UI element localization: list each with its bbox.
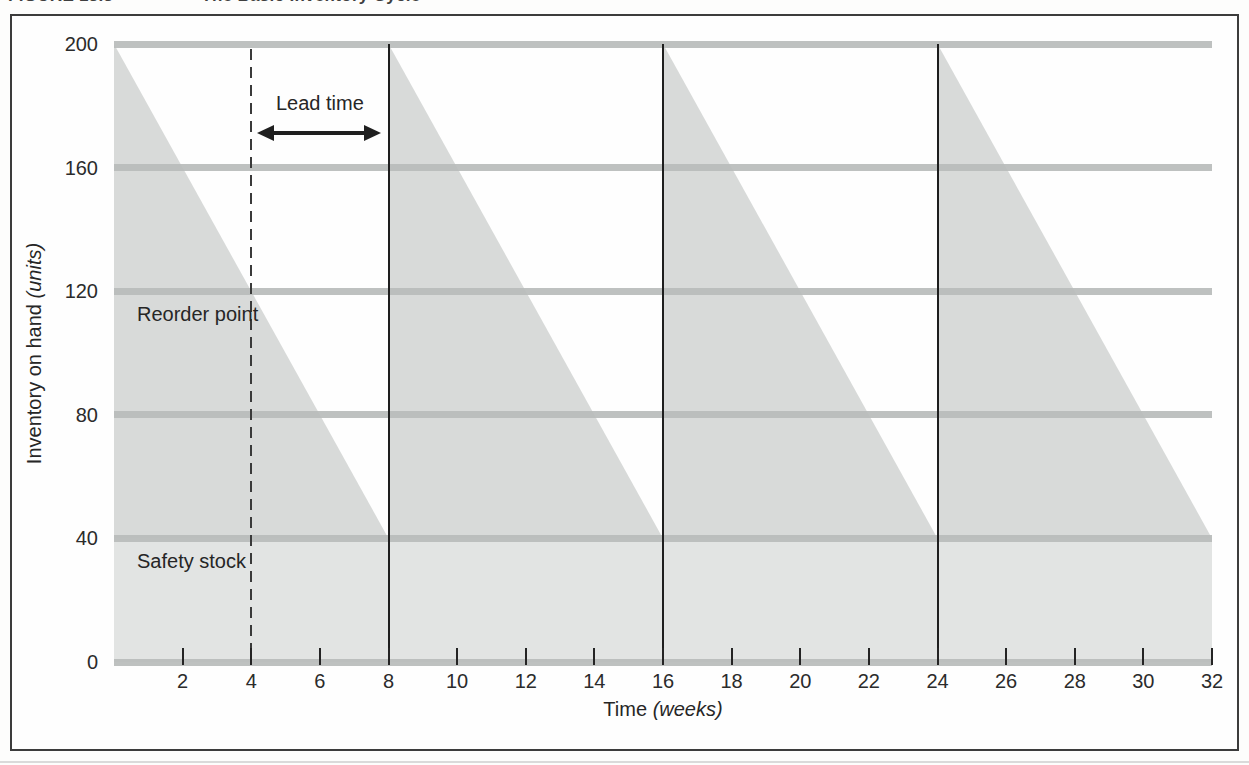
y-tick-label-200: 200 xyxy=(38,32,98,56)
x-tick-24 xyxy=(937,648,939,665)
replenishment-line-week-24 xyxy=(937,44,939,662)
x-tick-10 xyxy=(456,648,458,665)
x-tick-label-6: 6 xyxy=(300,670,340,693)
page-scan-artifact-line xyxy=(0,761,1249,763)
x-tick-16 xyxy=(662,648,664,665)
x-tick-2 xyxy=(182,648,184,665)
x-axis-title: Time (weeks) xyxy=(114,698,1212,721)
x-tick-14 xyxy=(593,648,595,665)
figure-caption-text: FIGURE 13.3The Basic Inventory Cycle xyxy=(8,0,648,6)
arrow-shaft xyxy=(274,131,363,135)
lead-time-annotation: Lead time xyxy=(251,92,388,150)
x-tick-label-4: 4 xyxy=(231,670,271,693)
x-tick-label-30: 30 xyxy=(1123,670,1163,693)
x-tick-label-24: 24 xyxy=(918,670,958,693)
x-tick-label-20: 20 xyxy=(780,670,820,693)
lead-time-arrow xyxy=(257,125,380,141)
arrow-left-head-icon xyxy=(257,125,274,141)
y-axis-tick-labels: 04080120160200 xyxy=(12,44,106,662)
replenishment-line-week-16 xyxy=(662,44,664,662)
x-tick-30 xyxy=(1142,648,1144,665)
x-axis-unit: (weeks) xyxy=(653,698,723,720)
x-tick-26 xyxy=(1005,648,1007,665)
x-tick-label-28: 28 xyxy=(1055,670,1095,693)
x-tick-4 xyxy=(250,648,252,665)
x-tick-label-8: 8 xyxy=(369,670,409,693)
x-tick-label-10: 10 xyxy=(437,670,477,693)
arrow-right-head-icon xyxy=(364,125,381,141)
figure-number: FIGURE 13.3 xyxy=(8,0,113,5)
x-tick-28 xyxy=(1074,648,1076,665)
x-tick-12 xyxy=(525,648,527,665)
x-tick-label-16: 16 xyxy=(643,670,683,693)
x-tick-18 xyxy=(731,648,733,665)
y-tick-label-160: 160 xyxy=(38,156,98,180)
x-tick-label-22: 22 xyxy=(849,670,889,693)
y-tick-label-0: 0 xyxy=(38,650,98,674)
figure-caption-cropped: FIGURE 13.3The Basic Inventory Cycle xyxy=(8,0,648,7)
x-tick-20 xyxy=(799,648,801,665)
x-tick-8 xyxy=(388,648,390,665)
reorder-point-label: Reorder point xyxy=(137,303,258,326)
y-tick-label-80: 80 xyxy=(38,403,98,427)
figure-title: The Basic Inventory Cycle xyxy=(201,0,420,5)
x-tick-label-32: 32 xyxy=(1192,670,1232,693)
x-tick-label-26: 26 xyxy=(986,670,1026,693)
x-tick-label-18: 18 xyxy=(712,670,752,693)
x-tick-6 xyxy=(319,648,321,665)
x-tick-label-12: 12 xyxy=(506,670,546,693)
x-tick-label-2: 2 xyxy=(163,670,203,693)
x-tick-22 xyxy=(868,648,870,665)
x-tick-32 xyxy=(1211,648,1213,665)
figure-frame: Inventory on hand (units) 04080120160200… xyxy=(10,14,1239,751)
x-tick-label-14: 14 xyxy=(574,670,614,693)
y-tick-label-40: 40 xyxy=(38,526,98,550)
y-tick-label-120: 120 xyxy=(38,279,98,303)
safety-stock-label: Safety stock xyxy=(137,550,246,573)
lead-time-label: Lead time xyxy=(251,92,388,115)
plot-area: Reorder point Safety stock Lead time 246… xyxy=(114,44,1212,662)
